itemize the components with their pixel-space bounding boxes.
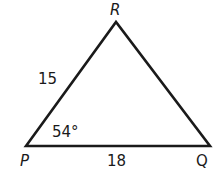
angle-label-p: 54° [52, 123, 79, 141]
vertex-label-p: P [20, 152, 30, 170]
vertex-label-q: Q [196, 152, 208, 170]
side-label-pq: 18 [107, 152, 126, 170]
vertex-label-r: R [110, 1, 120, 19]
side-label-pr: 15 [38, 70, 57, 88]
triangle-diagram: R P Q 15 18 54° [0, 0, 223, 182]
